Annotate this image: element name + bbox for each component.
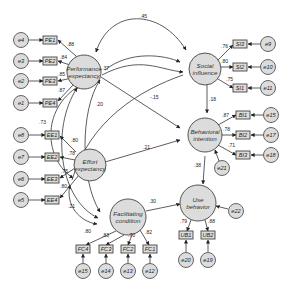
cov-pe-si-inner xyxy=(105,56,180,70)
loading-value: .78 xyxy=(223,126,230,132)
error-label: e7 xyxy=(18,154,25,160)
path-pe-bi xyxy=(101,77,180,128)
loading-value: .75 xyxy=(61,168,68,174)
latent-label-line1: Effort xyxy=(83,158,98,165)
error-label: e19 xyxy=(203,257,212,263)
indicator-label: PE1 xyxy=(45,37,56,43)
loading-value: .83 xyxy=(102,232,109,238)
cov-label-ee-fc: .21 xyxy=(68,203,75,209)
indicator-label: PE4 xyxy=(45,100,56,106)
error-label: e22 xyxy=(231,208,241,214)
error-label: e9 xyxy=(265,41,271,47)
indicator-label: FC3 xyxy=(101,246,112,252)
error-label: e15 xyxy=(78,268,88,274)
latent-label-line2: behavior xyxy=(186,203,211,210)
error-label: e1 xyxy=(18,100,24,106)
latent-label-line1: Social xyxy=(197,62,214,69)
latent-label-line2: intention xyxy=(193,135,217,142)
error-label: e17 xyxy=(266,132,276,138)
indicator-label: UB1 xyxy=(181,232,192,238)
loading-value: .80 xyxy=(84,228,91,234)
loading-value: .80 xyxy=(221,58,228,64)
error-label: e14 xyxy=(101,268,110,274)
latent-label-line1: Behavioral xyxy=(190,128,220,135)
disturbance-arrow xyxy=(216,206,228,209)
error-label: e12 xyxy=(145,268,155,274)
latent-social-influence: Social influence xyxy=(189,53,221,85)
error-label: e2 xyxy=(18,78,25,84)
loading-value: .76 xyxy=(221,43,228,49)
indicator-label: BI3 xyxy=(239,152,248,158)
path-label-ee-bi: .21 xyxy=(143,144,150,150)
path-label-bi-ub: .38 xyxy=(194,162,201,168)
si-indicators: .76 SI3 e9 .80 SI2 e10 .75 SI1 e11 xyxy=(218,37,276,96)
indicator-label: BI2 xyxy=(239,132,248,138)
coefficient-labels: .45 .37 .73 .20 .21 -.15 .21 .18 .38 .30 xyxy=(39,13,216,209)
loading-value: .80 xyxy=(60,183,67,189)
loading-value: .84 xyxy=(60,54,67,60)
error-label: e18 xyxy=(266,152,276,158)
error-label: e4 xyxy=(18,37,24,43)
loading-value: .87 xyxy=(58,87,65,93)
latent-behavioral-intention: Behavioral intention xyxy=(188,118,222,152)
loading-value: .78 xyxy=(68,150,75,156)
latent-label-line1: Performance xyxy=(66,65,102,72)
indicator-label: UB2 xyxy=(203,232,215,238)
latent-effort-expectancy: Effort expectancy xyxy=(74,149,107,181)
latent-use-behavior: Use behavior xyxy=(180,185,216,221)
indicator-label: SI2 xyxy=(236,64,245,70)
loading-value: .88 xyxy=(208,218,215,224)
path-label-fc-ub: .30 xyxy=(149,198,156,204)
latent-label-line2: influence xyxy=(193,69,218,76)
loading-arrow xyxy=(187,220,191,231)
error-label: e6 xyxy=(18,176,25,182)
error-label: e10 xyxy=(263,64,273,70)
indicator-label: BI1 xyxy=(239,112,247,118)
latent-label-line1: Use xyxy=(192,196,204,203)
path-label-pe-bi: -.15 xyxy=(150,94,159,100)
indicator-label: EE4 xyxy=(47,197,58,203)
error-label: e11 xyxy=(264,85,273,91)
cov-label-pe-ee: .73 xyxy=(39,119,46,125)
sem-diagram: e4 PE1 .88 e3 PE2 .84 e2 PE3 .85 e1 PE4 … xyxy=(0,0,292,293)
cov-arc-si xyxy=(102,65,183,75)
latent-label-line1: Facilitating xyxy=(113,210,143,217)
indicator-label: FC1 xyxy=(145,246,156,252)
loading-value: .71 xyxy=(228,142,235,148)
loading-value: .85 xyxy=(58,71,65,77)
path-fc-ub xyxy=(146,204,180,211)
indicator-label: SI1 xyxy=(236,85,244,91)
cov-label-pe-si-inner: .37 xyxy=(102,65,109,71)
error-label: e15 xyxy=(266,112,276,118)
latent-performance-expectancy: Performance expectancy xyxy=(66,55,102,89)
covariance-arcs xyxy=(51,19,186,224)
loading-value: .82 xyxy=(145,229,152,235)
cov-pe-si xyxy=(96,19,186,52)
error-label: e20 xyxy=(181,257,191,263)
cov-label-pe-si: .45 xyxy=(140,13,147,19)
indicator-label: PE2 xyxy=(45,58,56,64)
indicator-label: EE1 xyxy=(47,132,58,138)
loading-value: .80 xyxy=(71,137,78,143)
loading-value: .87 xyxy=(222,112,229,118)
latent-label-line2: expectancy xyxy=(68,72,100,79)
indicator-label: FC4 xyxy=(78,246,89,252)
disturbance-arrow xyxy=(215,150,219,161)
latent-label-line2: expectancy xyxy=(74,165,106,172)
loading-value: .75 xyxy=(226,76,233,82)
latent-facilitating-condition: Facilitating condition xyxy=(110,199,146,235)
error-label: e5 xyxy=(18,197,25,203)
loading-value: .79 xyxy=(180,218,187,224)
error-label: e8 xyxy=(18,132,25,138)
path-label-si-bi: .18 xyxy=(209,96,216,102)
error-label: e13 xyxy=(123,268,133,274)
error-label: e21 xyxy=(217,165,226,171)
fc-indicators: .80 FC4 e15 .83 FC3 e14 .70 FC2 e13 .82 … xyxy=(76,228,158,279)
latent-label-line2: condition xyxy=(116,217,141,224)
indicator-label: SI3 xyxy=(236,41,245,47)
bi-indicators: .87 BI1 e15 .78 BI2 e17 .71 BI3 e18 e21 xyxy=(215,108,279,176)
path-bi-ub xyxy=(203,156,205,184)
loading-value: .70 xyxy=(128,232,135,238)
loading-value: .88 xyxy=(67,41,74,47)
indicator-label: PE3 xyxy=(45,78,56,84)
